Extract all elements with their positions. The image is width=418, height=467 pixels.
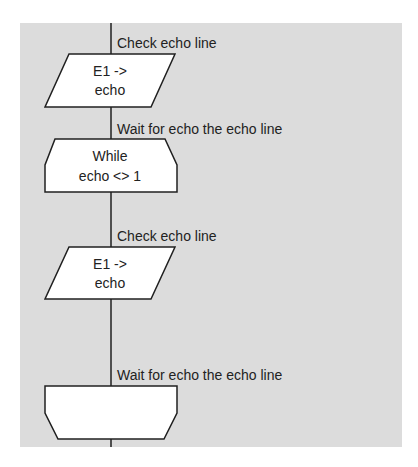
block-3-text-1: E1 -> (60, 255, 160, 273)
block-3-text-2: echo (60, 274, 160, 292)
block-1-text-1: E1 -> (60, 62, 160, 80)
block-4-comment: Wait for echo the echo line (117, 367, 282, 383)
block-3-comment: Check echo line (117, 228, 217, 244)
block-2-text-2: echo <> 1 (60, 167, 160, 185)
block-1-text-2: echo (60, 81, 160, 99)
block-2-comment: Wait for echo the echo line (117, 121, 282, 137)
block-2-text-1: While (60, 147, 160, 165)
block-1-comment: Check echo line (117, 35, 217, 51)
end-loop-block-shape[interactable] (45, 386, 177, 439)
